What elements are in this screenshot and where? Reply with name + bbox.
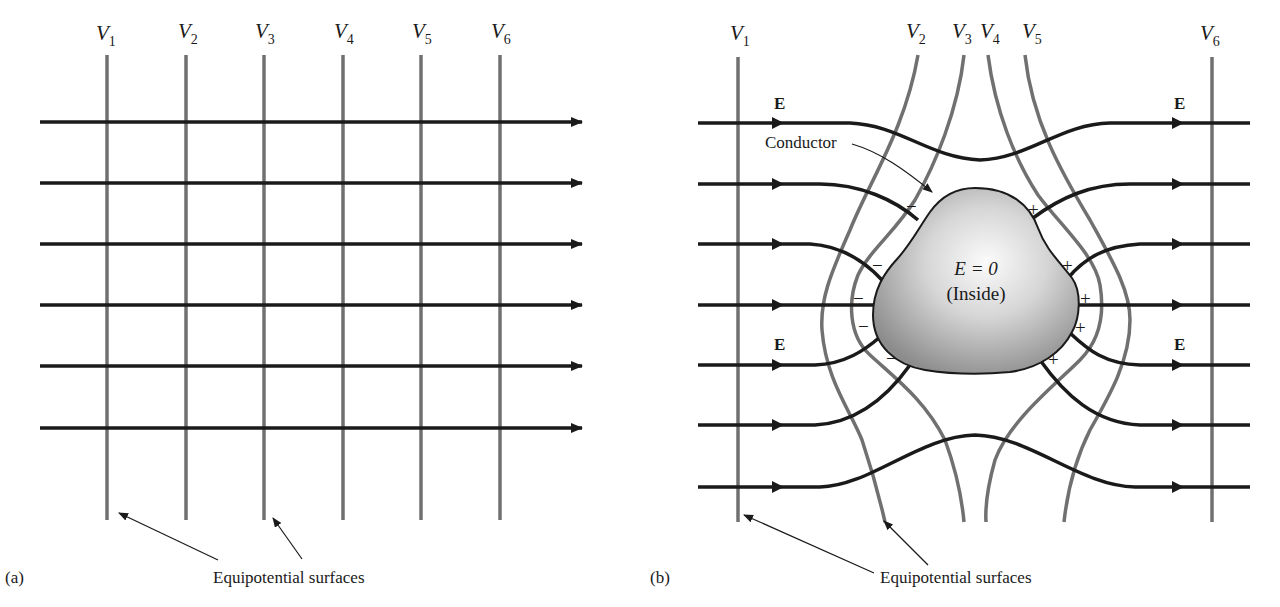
conductor-label: Conductor: [765, 133, 837, 152]
arrowhead: [1172, 481, 1184, 493]
equipotential-labels-a: V1 V2 V3 V4 V5 V6: [96, 19, 511, 49]
inside-field-value: E = 0: [953, 258, 998, 279]
label-v5: V5: [1022, 19, 1042, 47]
arrowhead: [772, 419, 784, 431]
label-v1: V1: [730, 21, 750, 49]
panel-label-a: (a): [5, 568, 24, 587]
caption-b: Equipotential surfaces: [880, 568, 1032, 587]
field-line: [698, 184, 918, 220]
arrowhead: [1172, 419, 1184, 431]
label-v1: V1: [96, 21, 116, 49]
figure-canvas: V1 V2 V3 V4 V5 V6 (a) Equipotential surf…: [0, 0, 1280, 607]
plus-sign: +: [1048, 349, 1059, 370]
conductor-pointer: [852, 144, 932, 192]
arrowhead: [772, 117, 784, 129]
label-v3: V3: [255, 19, 275, 47]
arrowhead: [772, 238, 784, 250]
panel-a: V1 V2 V3 V4 V5 V6 (a) Equipotential surf…: [5, 19, 582, 587]
arrowhead: [772, 178, 784, 190]
caption-pointers-b: [744, 515, 928, 573]
pointer-arrow: [744, 515, 874, 573]
arrowhead: [1172, 359, 1184, 371]
plus-sign: +: [1075, 317, 1086, 338]
arrowhead: [772, 481, 784, 493]
label-v6: V6: [1200, 21, 1220, 49]
arrowhead: [772, 359, 784, 371]
field-line: [698, 244, 882, 280]
minus-sign: −: [853, 288, 864, 309]
plus-sign: +: [1028, 199, 1039, 220]
arrowhead: [1172, 238, 1184, 250]
field-label-e: E: [774, 94, 785, 113]
plus-sign: +: [1062, 255, 1073, 276]
pointer-arrow: [119, 513, 218, 560]
panel-label-b: (b): [650, 568, 670, 587]
label-v2: V2: [906, 19, 926, 47]
minus-sign: −: [886, 348, 897, 369]
minus-sign: −: [906, 196, 917, 217]
label-v3: V3: [952, 19, 972, 47]
label-v2: V2: [178, 19, 198, 47]
caption-a: Equipotential surfaces: [213, 568, 365, 587]
arrowhead: [772, 299, 784, 311]
caption-pointers-a: [119, 513, 302, 560]
label-v4: V4: [980, 19, 1000, 47]
field-line: [698, 337, 880, 365]
label-v4: V4: [334, 19, 354, 47]
equipotential-labels-b: V1 V2 V3 V4 V5 V6: [730, 19, 1220, 49]
plus-sign: +: [1080, 288, 1091, 309]
equipotential-lines-a: [107, 55, 500, 520]
panel-b: E = 0 (Inside) − − − − − + + + + + Condu…: [650, 19, 1250, 587]
arrowhead: [1172, 178, 1184, 190]
arrowhead: [1172, 117, 1184, 129]
field-label-e: E: [1174, 94, 1185, 113]
field-label-e: E: [774, 335, 785, 354]
pointer-arrow: [273, 518, 302, 559]
field-line: [1033, 184, 1250, 218]
field-line: [698, 435, 1250, 487]
minus-sign: −: [858, 316, 869, 337]
field-line: [698, 365, 910, 425]
arrowhead: [1172, 299, 1184, 311]
field-label-e: E: [1174, 335, 1185, 354]
minus-sign: −: [872, 255, 883, 276]
inside-label: (Inside): [946, 283, 1005, 305]
label-v6: V6: [491, 19, 511, 47]
label-v5: V5: [412, 19, 432, 47]
pointer-arrow: [884, 521, 928, 565]
